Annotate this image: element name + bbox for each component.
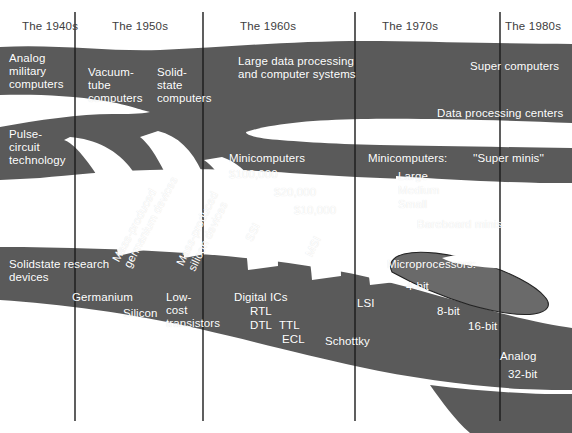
label-32-bit: 32-bit bbox=[508, 368, 537, 381]
white-slot-5 bbox=[332, 196, 396, 285]
label-price-10k: $10,000 bbox=[294, 204, 336, 217]
label-price-100k: $100,000 bbox=[229, 168, 278, 181]
era-label-1950s: The 1950s bbox=[112, 20, 168, 32]
label-minicomputers-large: Large bbox=[398, 170, 428, 183]
label-4-bit: 4-bit bbox=[406, 280, 429, 293]
label-germanium: Germanium bbox=[72, 291, 133, 304]
label-solid-state-computers: Solid- state computers bbox=[157, 66, 212, 106]
label-super-minis: ''Super minis'' bbox=[473, 152, 544, 165]
label-bareboard-minis: Bareboard minis bbox=[417, 218, 502, 231]
label-microprocessors: Microprocessors: bbox=[387, 258, 476, 271]
era-label-1970s: The 1970s bbox=[382, 20, 438, 32]
label-digital-ics: Digital ICs bbox=[234, 291, 288, 304]
label-solidstate-research-devices: Solidstate research devices bbox=[9, 258, 109, 284]
label-minicomputers-classes: Minicomputers: bbox=[368, 152, 447, 165]
label-silicon: Silicon bbox=[123, 307, 158, 320]
era-label-1940s: The 1940s bbox=[22, 20, 78, 32]
label-lsi: LSI bbox=[357, 297, 375, 310]
label-analog-military-computers: Analog military computers bbox=[9, 52, 64, 92]
label-price-20k: $20,000 bbox=[274, 186, 316, 199]
label-pulse-circuit-technology: Pulse- circuit technology bbox=[9, 128, 66, 168]
label-minicomputers-small: Small bbox=[398, 198, 427, 211]
label-8-bit: 8-bit bbox=[437, 305, 460, 318]
label-ecl: ECL bbox=[282, 333, 305, 346]
label-data-processing-centers: Data processing centers bbox=[437, 107, 563, 120]
label-dtl: DTL bbox=[250, 319, 272, 332]
label-analog: Analog bbox=[500, 350, 536, 363]
label-low-cost-transistors: Low- cost transistors bbox=[166, 291, 220, 331]
label-super-computers: Super computers bbox=[470, 60, 559, 73]
label-large-data-processing: Large data processing and computer syste… bbox=[238, 55, 356, 81]
technology-evolution-figure: The 1940s The 1950s The 1960s The 1970s … bbox=[0, 0, 572, 433]
era-label-1960s: The 1960s bbox=[240, 20, 296, 32]
era-label-1980s: The 1980s bbox=[505, 20, 561, 32]
label-vacuum-tube-computers: Vacuum- tube computers bbox=[88, 66, 143, 106]
label-minicomputers: Minicomputers bbox=[229, 152, 305, 165]
label-16-bit: 16-bit bbox=[468, 320, 497, 333]
label-ttl: TTL bbox=[279, 319, 300, 332]
label-schottky: Schottky bbox=[325, 335, 370, 348]
label-minicomputers-medium: Medium bbox=[398, 184, 440, 197]
label-rtl: RTL bbox=[250, 305, 272, 318]
